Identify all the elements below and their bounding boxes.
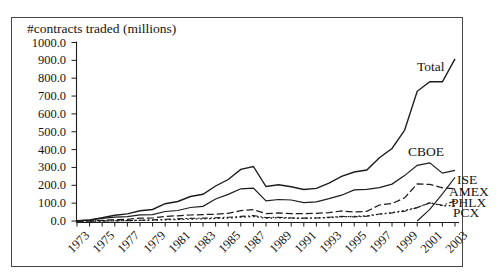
y-tick-label-400.0: 400.0 [22, 143, 66, 157]
y-tick-label-900.0: 900.0 [22, 53, 66, 67]
y-tick-label-500.0: 500.0 [22, 125, 66, 139]
chart-figure: #contracts traded (millions) 1000.0900.0… [0, 0, 503, 276]
series-label-pcx: PCX [453, 206, 479, 219]
y-tick-label-0.0: 0.0 [22, 214, 66, 228]
y-tick-label-600.0: 600.0 [22, 107, 66, 121]
y-tick-label-800.0: 800.0 [22, 71, 66, 85]
y-tick-label-200.0: 200.0 [22, 178, 66, 192]
y-tick-label-700.0: 700.0 [22, 89, 66, 103]
y-tick-label-100.0: 100.0 [22, 196, 66, 210]
series-label-total: Total [417, 60, 445, 73]
y-tick-label-1000.0: 1000.0 [22, 36, 66, 50]
series-line-total [77, 59, 455, 221]
series-label-cboe: CBOE [408, 145, 444, 158]
y-tick-label-300.0: 300.0 [22, 160, 66, 174]
